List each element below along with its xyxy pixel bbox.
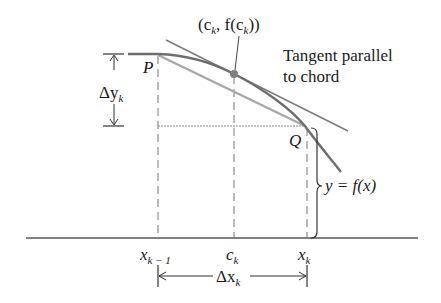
mvt-diagram: (ck, f(ck)) Tangent parallel to chord P … (0, 0, 441, 303)
point-callout-line (235, 36, 239, 70)
x-curr-label: xk (297, 245, 312, 266)
tangent-label-line1: Tangent parallel (283, 46, 393, 65)
tangent-point-marker (230, 70, 238, 78)
point-p-label: P (142, 58, 153, 77)
c-label: ck (226, 245, 240, 266)
function-label: y = f(x) (323, 176, 376, 195)
chord-line (158, 55, 305, 126)
delta-y-label: Δyk (99, 83, 124, 104)
delta-x-label: Δxk (216, 267, 241, 288)
tangent-label-line2: to chord (283, 67, 340, 86)
point-q-label: Q (289, 131, 301, 150)
point-c-label: (ck, f(ck)) (198, 15, 260, 36)
x-prev-label: xk − 1 (139, 245, 171, 266)
